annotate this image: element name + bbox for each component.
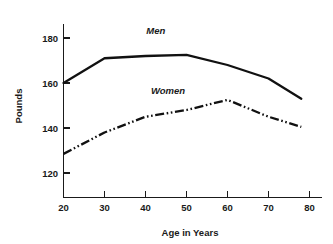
men-series-label: Men <box>146 25 165 36</box>
x-tick-label-40: 40 <box>140 202 151 213</box>
x-tick-label-30: 30 <box>99 202 110 213</box>
x-axis-title: Age in Years <box>162 227 219 238</box>
y-tick-label-140: 140 <box>42 123 58 134</box>
y-tick-label-180: 180 <box>42 33 58 44</box>
x-tick-label-80: 80 <box>304 202 315 213</box>
y-tick-label-160: 160 <box>42 78 58 89</box>
x-tick-label-60: 60 <box>222 202 233 213</box>
x-tick-label-70: 70 <box>263 202 274 213</box>
chart-canvas: 180 160 140 120 20 30 40 50 60 70 80 Pou… <box>0 0 333 244</box>
weight-by-age-chart: 180 160 140 120 20 30 40 50 60 70 80 Pou… <box>0 0 333 244</box>
y-tick-label-120: 120 <box>42 168 58 179</box>
x-tick-label-20: 20 <box>58 202 69 213</box>
women-series-label: Women <box>151 85 185 96</box>
y-axis-title: Pounds <box>13 89 24 124</box>
x-tick-label-50: 50 <box>181 202 192 213</box>
women-series-line <box>64 100 302 154</box>
